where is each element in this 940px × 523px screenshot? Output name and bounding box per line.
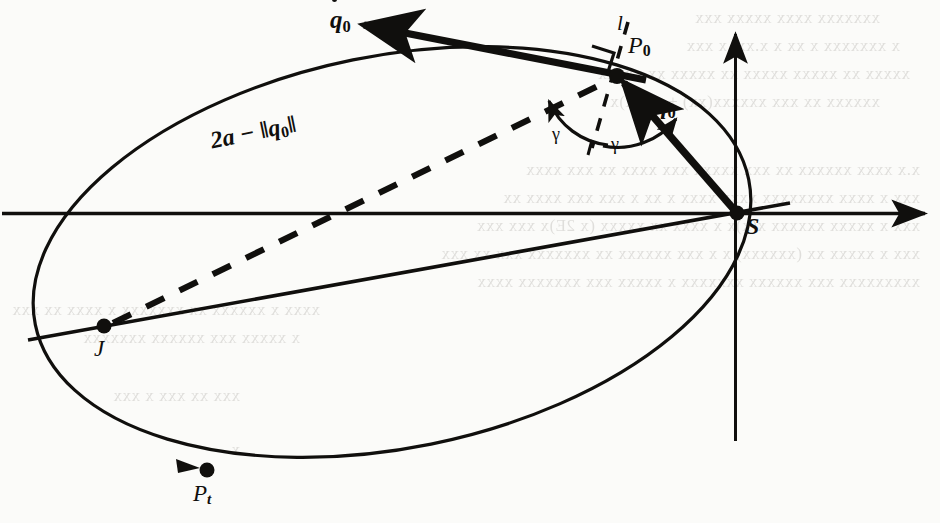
label-point-P0: P0: [628, 32, 651, 60]
point-S-dot: [730, 206, 745, 221]
label-gamma-right: γ: [611, 134, 619, 155]
position-vector-q0-group: [624, 83, 737, 213]
qdot-subscript: 0: [343, 17, 351, 36]
label-gamma-left: γ: [552, 124, 560, 145]
point-J-dot: [97, 319, 112, 334]
label-point-S: S: [746, 213, 759, 240]
label-line-l: l: [617, 11, 623, 36]
P0-subscript: 0: [643, 42, 651, 59]
major-axis-line: [28, 203, 790, 340]
q0-glyph: q: [655, 92, 668, 119]
orbit-ellipse: [0, 0, 788, 517]
Pt-subscript: t: [207, 490, 211, 507]
figure-page: xxxxxxx xxxx xxxxx xxxx xxxxxxx x xx x x…: [0, 0, 940, 523]
label-position-vector-q0: q0: [655, 92, 676, 123]
point-P0-dot: [609, 68, 625, 84]
point-Pt-dot: [200, 463, 215, 478]
motion-direction-arrowhead: [176, 459, 200, 473]
motion-direction-arrow-group: [176, 459, 200, 473]
label-point-Pt: Pt: [193, 481, 211, 508]
orbit-ellipse-group: [0, 0, 788, 517]
label-point-J: J: [94, 336, 104, 362]
position-vector-q0: [624, 83, 737, 213]
P0-glyph: P: [628, 32, 643, 58]
q0-subscript: 0: [668, 103, 676, 122]
gamma-arc-tick: [588, 140, 592, 155]
orbit-diagram-svg: [0, 0, 940, 523]
marked-points: [97, 68, 745, 478]
Pt-glyph: P: [193, 481, 207, 506]
label-velocity-vector-qdot0: q0: [330, 6, 351, 37]
coordinate-axes: [2, 34, 925, 441]
qdot-glyph: q: [330, 6, 343, 34]
apse-line-group: [28, 203, 790, 340]
